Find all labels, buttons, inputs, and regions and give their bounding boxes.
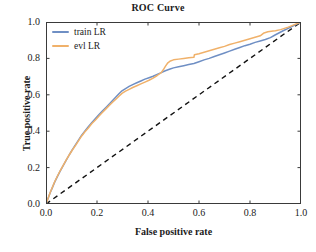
x-axis-label: False positive rate: [46, 226, 301, 237]
legend: train LR evl LR: [52, 26, 106, 51]
x-tick-label: 0.8: [235, 207, 265, 218]
legend-color-swatch: [52, 31, 69, 33]
y-tick-label: 1.0: [14, 16, 40, 27]
legend-item-train-lr: train LR: [52, 26, 106, 37]
y-tick-label: 0.6: [14, 89, 40, 100]
page-title: ROC Curve: [0, 2, 316, 13]
x-tick-label: 1.0: [286, 207, 316, 218]
legend-label: train LR: [74, 27, 106, 37]
x-tick-label: 0.2: [82, 207, 112, 218]
roc-curve-figure: ROC Curve True positive rate False posit…: [0, 0, 316, 252]
x-tick-label: 0.4: [133, 207, 163, 218]
y-tick-label: 0.2: [14, 162, 40, 173]
legend-color-swatch: [52, 45, 69, 47]
x-tick-label: 0.6: [184, 207, 214, 218]
y-tick-label: 0.8: [14, 52, 40, 63]
x-tick-label: 0.0: [31, 207, 61, 218]
y-tick-label: 0.4: [14, 125, 40, 136]
legend-label: evl LR: [74, 41, 100, 51]
legend-item-evl-lr: evl LR: [52, 40, 106, 51]
